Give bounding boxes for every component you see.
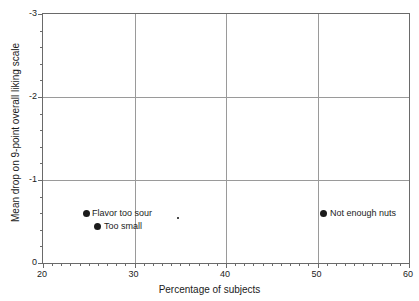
x-tick-minor [162, 263, 163, 266]
x-tick-minor [52, 263, 53, 266]
x-tick-minor [345, 263, 346, 266]
y-tick-minor [40, 197, 43, 198]
x-tick-label: 20 [37, 269, 47, 279]
x-tick-minor [61, 263, 62, 266]
x-tick-minor [290, 263, 291, 266]
x-tick-minor [281, 263, 282, 266]
x-tick-major [318, 263, 319, 268]
y-tick-major [38, 97, 43, 98]
x-tick-label: 30 [128, 269, 138, 279]
scatter-plot-figure: Flavor too sourToo smallNot enough nuts … [0, 0, 419, 301]
x-tick-minor [400, 263, 401, 266]
x-tick-minor [391, 263, 392, 266]
y-tick-label: -1 [16, 174, 37, 184]
data-point-marker [94, 223, 101, 230]
y-tick-label: -3 [16, 8, 37, 18]
data-point-label: Not enough nuts [330, 209, 396, 218]
x-tick-label: 60 [403, 269, 413, 279]
y-tick-label: 0 [16, 257, 37, 267]
x-tick-major [135, 263, 136, 268]
y-tick-minor [40, 64, 43, 65]
x-tick-minor [125, 263, 126, 266]
x-tick-minor [199, 263, 200, 266]
y-tick-minor [40, 130, 43, 131]
x-axis-title: Percentage of subjects [0, 284, 419, 295]
x-tick-minor [308, 263, 309, 266]
x-tick-minor [382, 263, 383, 266]
x-tick-minor [171, 263, 172, 266]
x-tick-minor [153, 263, 154, 266]
y-tick-major [38, 263, 43, 264]
y-tick-minor [40, 147, 43, 148]
x-tick-minor [98, 263, 99, 266]
x-tick-minor [299, 263, 300, 266]
x-tick-minor [70, 263, 71, 266]
x-tick-minor [180, 263, 181, 266]
y-tick-minor [40, 80, 43, 81]
x-tick-minor [244, 263, 245, 266]
y-tick-minor [40, 246, 43, 247]
data-point-label: Too small [104, 222, 142, 231]
data-point-marker [177, 217, 179, 219]
x-tick-minor [354, 263, 355, 266]
x-tick-minor [235, 263, 236, 266]
x-tick-minor [327, 263, 328, 266]
gridline-vertical [226, 14, 227, 263]
y-tick-minor [40, 31, 43, 32]
y-tick-minor [40, 230, 43, 231]
data-point-marker [320, 210, 327, 217]
x-tick-minor [253, 263, 254, 266]
data-point-marker [83, 210, 90, 217]
x-tick-minor [263, 263, 264, 266]
x-tick-major [409, 263, 410, 268]
x-tick-minor [89, 263, 90, 266]
y-tick-label: -2 [16, 91, 37, 101]
x-tick-minor [80, 263, 81, 266]
y-tick-minor [40, 47, 43, 48]
plot-area: Flavor too sourToo smallNot enough nuts [42, 13, 410, 264]
x-tick-label: 40 [220, 269, 230, 279]
y-tick-minor [40, 163, 43, 164]
x-tick-minor [189, 263, 190, 266]
y-axis-title: Mean drop on 9-point overall liking scal… [10, 13, 21, 253]
gridline-vertical [318, 14, 319, 263]
x-tick-major [226, 263, 227, 268]
x-tick-minor [217, 263, 218, 266]
x-tick-minor [208, 263, 209, 266]
x-tick-minor [372, 263, 373, 266]
x-tick-minor [116, 263, 117, 266]
y-tick-minor [40, 114, 43, 115]
data-point-label: Flavor too sour [92, 209, 152, 218]
x-tick-label: 50 [311, 269, 321, 279]
x-tick-minor [272, 263, 273, 266]
y-tick-major [38, 14, 43, 15]
x-tick-major [43, 263, 44, 268]
x-tick-minor [107, 263, 108, 266]
x-tick-minor [336, 263, 337, 266]
x-tick-minor [363, 263, 364, 266]
y-tick-minor [40, 213, 43, 214]
x-tick-minor [144, 263, 145, 266]
y-tick-major [38, 180, 43, 181]
